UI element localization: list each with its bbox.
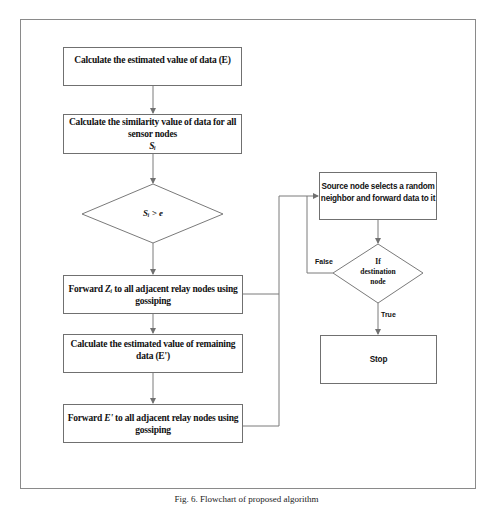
source-select-line1: Source node selects a random — [321, 181, 434, 193]
stop-box: Stop — [320, 335, 437, 384]
forward-z-box: Forward Zᵢ to all adjacent relay nodes u… — [63, 275, 243, 314]
forward-e-line1: Forward E' to all adjacent relay nodes u… — [68, 412, 239, 424]
calc-remaining-box: Calculate the estimated value of remaini… — [63, 334, 243, 373]
calc-estimate-box: Calculate the estimated value of data (E… — [63, 47, 242, 86]
figure-caption: Fig. 6. Flowchart of proposed algorithm — [0, 494, 493, 504]
false-edge-label: False — [315, 258, 333, 265]
source-select-line2: neighbor and forward data to it — [321, 193, 435, 205]
forward-z-line2: gossiping — [135, 295, 171, 307]
similarity-symbol: Sᵢ — [149, 140, 156, 152]
true-edge-label: True — [381, 311, 396, 318]
calc-estimate-label: Calculate the estimated value of data (E… — [74, 54, 230, 66]
calc-remaining-line1: Calculate the estimated value of remaini… — [71, 338, 236, 350]
forward-e-line2: gossiping — [135, 424, 171, 436]
destination-decision-label: If destination node — [343, 257, 413, 287]
calc-similarity-line1: Calculate the similarity value of data f… — [69, 116, 236, 128]
calc-remaining-line2: data (E') — [136, 350, 170, 362]
forward-z-line1: Forward Zᵢ to all adjacent relay nodes u… — [68, 283, 237, 295]
threshold-decision-label: Sᵢ > e — [113, 208, 193, 218]
forward-e-box: Forward E' to all adjacent relay nodes u… — [63, 404, 243, 443]
calc-similarity-line2: sensor nodes — [128, 128, 177, 140]
calc-similarity-box: Calculate the similarity value of data f… — [63, 114, 242, 154]
source-select-box: Source node selects a random neighbor an… — [319, 172, 437, 220]
stop-label: Stop — [370, 354, 387, 366]
